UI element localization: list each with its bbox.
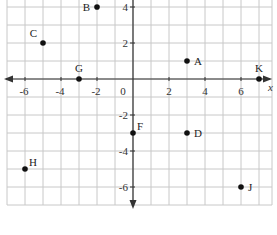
x-tick-label: 0 bbox=[120, 85, 126, 97]
point-label-j: J bbox=[248, 181, 253, 193]
y-tick-label: -4 bbox=[119, 145, 129, 157]
y-tick-label: -2 bbox=[119, 109, 128, 121]
x-tick-label: 6 bbox=[238, 85, 244, 97]
point-k[interactable] bbox=[256, 76, 262, 82]
x-tick-label: 2 bbox=[166, 85, 172, 97]
point-label-g: G bbox=[75, 62, 83, 74]
point-f[interactable] bbox=[130, 130, 136, 136]
point-b[interactable] bbox=[94, 4, 100, 10]
y-tick-label: -6 bbox=[119, 181, 129, 193]
point-g[interactable] bbox=[76, 76, 82, 82]
point-label-h: H bbox=[29, 156, 37, 168]
x-tick-label: -2 bbox=[91, 85, 100, 97]
x-tick-label: -4 bbox=[55, 85, 65, 97]
point-label-f: F bbox=[137, 120, 143, 132]
point-c[interactable] bbox=[40, 40, 46, 46]
x-tick-label: -6 bbox=[19, 85, 29, 97]
point-label-d: D bbox=[194, 127, 202, 139]
point-label-c: C bbox=[30, 27, 37, 39]
x-tick-label: 4 bbox=[202, 85, 208, 97]
point-label-k: K bbox=[255, 62, 263, 74]
x-axis-label: x bbox=[267, 81, 273, 93]
y-tick-label: 4 bbox=[123, 1, 129, 13]
coordinate-plane: x -6-4-2024642-2-4-6 ABCDFGHJK bbox=[0, 0, 277, 235]
axes: x bbox=[4, 0, 273, 209]
point-d[interactable] bbox=[184, 130, 190, 136]
point-j[interactable] bbox=[238, 184, 244, 190]
point-label-a: A bbox=[194, 55, 202, 67]
x-axis-left-arrow-icon bbox=[4, 76, 13, 83]
y-tick-label: 2 bbox=[123, 37, 129, 49]
grid-lines bbox=[7, 0, 272, 205]
point-label-b: B bbox=[83, 1, 90, 13]
point-a[interactable] bbox=[184, 58, 190, 64]
point-h[interactable] bbox=[22, 166, 28, 172]
